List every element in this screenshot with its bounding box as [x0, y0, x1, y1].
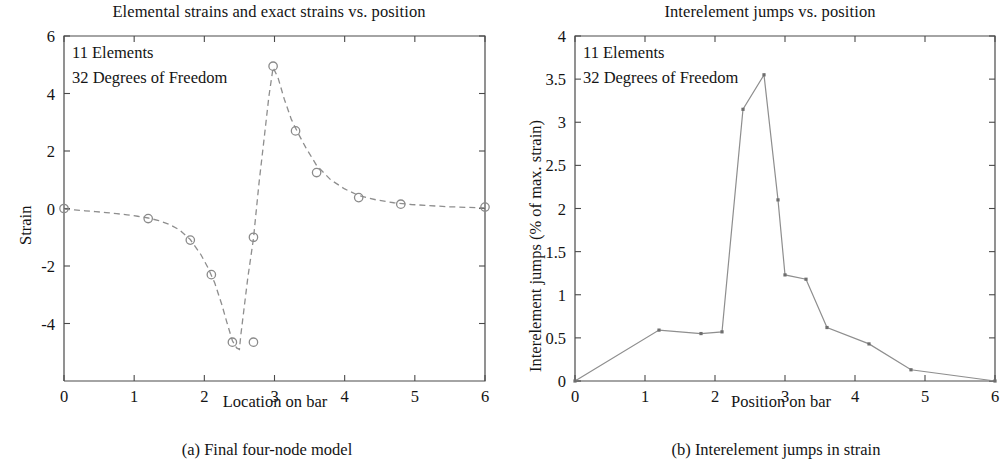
plot-annotation: 32 Degrees of Freedom [583, 68, 738, 87]
data-point-marker [993, 379, 996, 382]
data-point-marker [573, 379, 576, 382]
data-point-marker [269, 62, 277, 70]
data-point-marker [657, 329, 660, 332]
y-tick-label: 1 [558, 286, 566, 305]
plot-area-b: 012345600.511.522.533.5411 Elements32 De… [504, 0, 1008, 430]
y-tick-label: 4 [47, 85, 55, 104]
data-point-marker [909, 368, 912, 371]
y-tick-label: 2 [558, 200, 566, 219]
data-series-line [64, 68, 485, 350]
y-tick-label: 0 [558, 372, 566, 391]
data-point-marker [720, 330, 723, 333]
y-tick-label: 0.5 [545, 329, 566, 348]
axis-frame [575, 36, 995, 381]
figure-container: Elemental strains and exact strains vs. … [0, 0, 1008, 475]
subcaption-a: (a) Final four-node model [0, 440, 504, 460]
plot-annotation: 11 Elements [583, 43, 664, 62]
data-point-marker [355, 193, 363, 201]
data-point-marker [249, 338, 257, 346]
x-axis-label-b: Position on bar [504, 392, 1008, 412]
plot-annotation: 11 Elements [72, 43, 153, 62]
data-point-marker [699, 332, 702, 335]
y-tick-label: -4 [41, 315, 55, 334]
subcaption-b: (b) Interelement jumps in strain [504, 440, 1008, 460]
data-point-marker [825, 326, 828, 329]
data-point-marker [762, 73, 765, 76]
data-point-marker [804, 278, 807, 281]
axis-frame [64, 36, 485, 381]
y-tick-label: 2 [47, 142, 55, 161]
data-point-marker [776, 198, 779, 201]
data-point-marker [741, 108, 744, 111]
y-tick-label: 1.5 [545, 243, 566, 262]
y-tick-label: -2 [41, 257, 55, 276]
data-point-marker [312, 168, 320, 176]
y-tick-label: 3.5 [545, 70, 566, 89]
y-tick-label: 0 [47, 200, 55, 219]
panel-b: Interelement jumps vs. position Interele… [504, 0, 1008, 475]
panel-a: Elemental strains and exact strains vs. … [0, 0, 504, 475]
data-point-marker [783, 273, 786, 276]
y-tick-label: 4 [558, 27, 566, 46]
y-tick-label: 6 [47, 27, 55, 46]
plot-annotation: 32 Degrees of Freedom [72, 68, 227, 87]
x-axis-label-a: Location on bar [0, 392, 504, 412]
y-tick-label: 3 [558, 113, 566, 132]
plot-area-a: 0123456-4-2024611 Elements32 Degrees of … [0, 0, 504, 430]
data-point-marker [867, 342, 870, 345]
y-tick-label: 2.5 [545, 156, 566, 175]
data-series-line [575, 75, 995, 381]
